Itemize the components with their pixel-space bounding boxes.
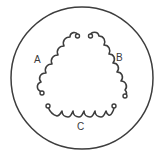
winding-diagram: A B C bbox=[0, 0, 162, 160]
coil-b bbox=[89, 32, 128, 98]
coil-a-terminal-bottom bbox=[40, 91, 44, 95]
coil-b-terminal-top bbox=[89, 34, 93, 38]
coil-c-terminal-right bbox=[112, 104, 116, 108]
coil-a-label: A bbox=[34, 54, 41, 65]
coil-b-label: B bbox=[116, 52, 123, 63]
coil-c-terminal-left bbox=[46, 104, 50, 108]
coil-a-terminal-top bbox=[76, 34, 80, 38]
coil-a bbox=[37, 33, 79, 95]
coil-c bbox=[46, 104, 116, 117]
coil-c-label: C bbox=[77, 121, 84, 132]
coil-b-terminal-bottom bbox=[123, 94, 127, 98]
